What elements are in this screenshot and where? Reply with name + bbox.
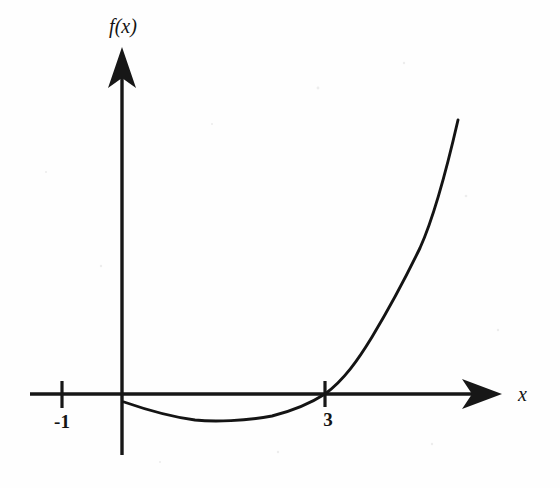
x-axis-label: x: [517, 383, 527, 405]
x-axis: [30, 379, 502, 409]
tick-label-3: 3: [323, 409, 333, 430]
function-graph-figure: f(x) x -1 3: [0, 0, 560, 488]
graph-canvas: f(x) x -1 3: [0, 0, 560, 488]
curve-path: [124, 120, 458, 421]
function-curve: [124, 120, 458, 421]
y-axis-label: f(x): [109, 15, 137, 38]
scan-speckles: [45, 62, 499, 463]
tick-label-neg1: -1: [54, 411, 70, 432]
